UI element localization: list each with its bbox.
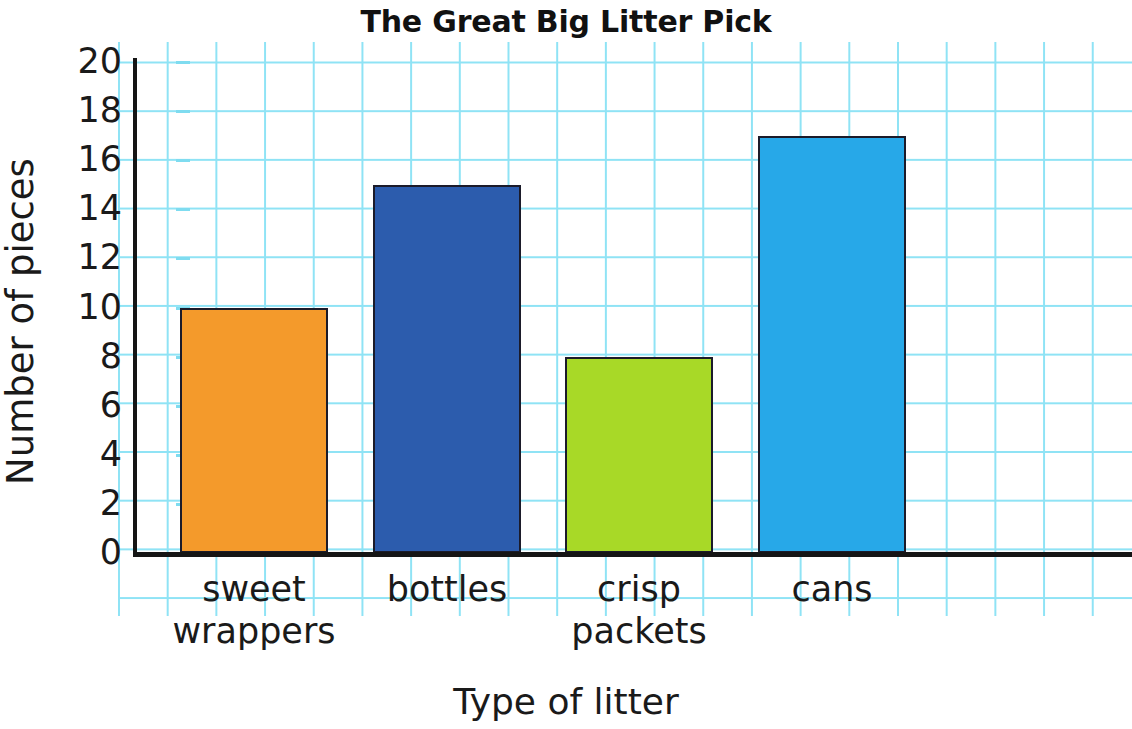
y-axis-tick-label: 2 xyxy=(52,486,122,521)
y-axis-tick-label: 20 xyxy=(52,44,122,79)
bar-crisp-packets xyxy=(565,357,713,553)
y-axis-tick-label: 4 xyxy=(52,437,122,472)
plot-area xyxy=(135,61,1132,553)
bars-layer xyxy=(135,61,1132,553)
y-axis-title: Number of pieces xyxy=(0,92,42,552)
bar-bottles xyxy=(373,185,521,553)
x-axis-label-line-1: sweet xyxy=(202,569,306,609)
x-axis-title: Type of litter xyxy=(0,681,1132,722)
y-axis-tick-label: 18 xyxy=(52,93,122,128)
x-axis-label-line-1: cans xyxy=(791,569,872,609)
y-axis-tick-label: 14 xyxy=(52,191,122,226)
x-axis-label-line-2: packets xyxy=(489,610,789,652)
y-axis-tick-label: 16 xyxy=(52,142,122,177)
x-axis-line xyxy=(133,552,1132,557)
bar-cans xyxy=(758,136,906,553)
y-axis-tick-label: 8 xyxy=(52,339,122,374)
x-axis-label-cans: cans xyxy=(682,568,982,610)
y-axis-tick-label: 12 xyxy=(52,240,122,275)
y-axis-tick-label: 6 xyxy=(52,388,122,423)
y-axis-tick-label: 0 xyxy=(52,535,122,570)
bar-sweet-wrappers xyxy=(180,308,328,554)
x-axis-label-line-2: wrappers xyxy=(104,610,404,652)
y-axis-tick-label: 10 xyxy=(52,290,122,325)
y-axis-line xyxy=(133,58,137,556)
bar-chart: The Great Big Litter Pick 02468101214161… xyxy=(0,0,1132,729)
chart-title: The Great Big Litter Pick xyxy=(0,4,1132,39)
x-axis-label-line-1: crisp xyxy=(597,569,681,609)
